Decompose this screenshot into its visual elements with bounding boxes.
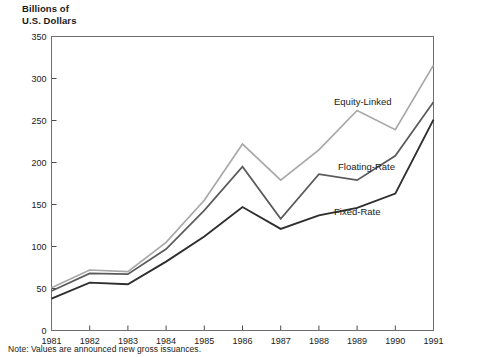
- x-axis-ticks: 1981198219831984198519861987198819891990…: [41, 326, 443, 346]
- y-tick-label: 150: [31, 200, 46, 210]
- y-tick-label: 50: [36, 284, 46, 294]
- chart-figure: Billions of U.S. Dollars 050100150200250…: [0, 0, 485, 357]
- y-tick-label: 200: [31, 158, 46, 168]
- series-label-fixed: Fixed-Rate: [334, 206, 380, 217]
- x-tick-label: 1988: [309, 336, 329, 346]
- series-label-floating: Floating-Rate: [338, 161, 395, 172]
- y-tick-label: 0: [41, 326, 46, 336]
- y-tick-label: 250: [31, 116, 46, 126]
- line-chart-canvas: 050100150200250300350 198119821983198419…: [0, 0, 485, 357]
- series-label-equity: Equity-Linked: [334, 96, 392, 107]
- series-line-floating-rate: [52, 102, 434, 291]
- x-tick-label: 1986: [232, 336, 252, 346]
- y-tick-label: 350: [31, 32, 46, 42]
- x-tick-label: 1989: [347, 336, 367, 346]
- y-tick-label: 100: [31, 242, 46, 252]
- x-tick-label: 1987: [271, 336, 291, 346]
- x-tick-label: 1990: [385, 336, 405, 346]
- y-tick-label: 300: [31, 74, 46, 84]
- chart-note: Note: Values are announced new gross iss…: [8, 344, 201, 354]
- plot-frame: [52, 37, 434, 331]
- x-tick-label: 1991: [423, 336, 443, 346]
